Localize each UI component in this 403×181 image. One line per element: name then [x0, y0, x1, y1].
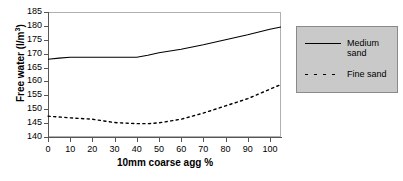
- y-tick-mark: [44, 68, 49, 69]
- x-tick-label: 0: [36, 145, 60, 154]
- x-axis-title: 10mm coarse agg %: [48, 157, 282, 168]
- x-tick-mark: [226, 137, 227, 142]
- y-axis-title-exponent: 3: [14, 28, 21, 32]
- legend-label-fine-sand: Fine sand: [347, 69, 387, 79]
- y-axis-title-text: Free water (l/m: [15, 31, 26, 102]
- y-tick-mark: [44, 95, 49, 96]
- y-tick-mark: [44, 12, 49, 13]
- x-tick-label: 60: [169, 145, 193, 154]
- y-tick-mark: [44, 26, 49, 27]
- x-tick-label: 100: [258, 145, 282, 154]
- x-tick-label: 40: [125, 145, 149, 154]
- legend-item-medium-sand: Medium sand: [303, 38, 379, 58]
- y-tick-label: 140: [0, 132, 42, 141]
- x-tick-mark: [137, 137, 138, 142]
- plot-area: [48, 12, 281, 137]
- y-tick-mark: [44, 123, 49, 124]
- x-tick-mark: [48, 137, 49, 142]
- chart-container: 140145150155160165170175180185 010203040…: [0, 0, 403, 181]
- y-tick-mark: [44, 54, 49, 55]
- y-axis-title: Free water (l/m3): [14, 0, 26, 129]
- y-tick-mark: [44, 109, 49, 110]
- legend-item-fine-sand: Fine sand: [303, 69, 387, 81]
- x-tick-mark: [115, 137, 116, 142]
- y-tick-mark: [44, 81, 49, 82]
- x-tick-label: 10: [58, 145, 82, 154]
- x-tick-label: 50: [147, 145, 171, 154]
- y-axis-line: [48, 12, 49, 138]
- y-tick-mark: [44, 40, 49, 41]
- legend-line-dotted-icon: [303, 69, 343, 81]
- y-axis-title-paren: ): [15, 24, 26, 27]
- x-tick-mark: [248, 137, 249, 142]
- x-tick-label: 20: [80, 145, 104, 154]
- x-tick-mark: [203, 137, 204, 142]
- x-tick-mark: [92, 137, 93, 142]
- x-tick-mark: [70, 137, 71, 142]
- legend: Medium sand Fine sand: [296, 26, 398, 93]
- x-tick-mark: [159, 137, 160, 142]
- x-tick-mark: [181, 137, 182, 142]
- x-tick-mark: [270, 137, 271, 142]
- x-tick-label: 90: [236, 145, 260, 154]
- legend-label-medium-sand: Medium sand: [347, 38, 379, 58]
- x-tick-label: 80: [214, 145, 238, 154]
- x-tick-label: 70: [191, 145, 215, 154]
- x-tick-label: 30: [103, 145, 127, 154]
- legend-line-solid-icon: [303, 38, 343, 50]
